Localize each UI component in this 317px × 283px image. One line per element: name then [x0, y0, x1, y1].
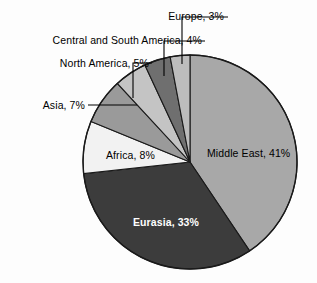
- slice-label-north-america: North America, 5%: [10, 57, 149, 69]
- slice-label-asia: Asia, 7%: [10, 99, 85, 111]
- slice-label-africa: Africa, 8%: [106, 149, 155, 161]
- slice-label-middle-east: Middle East, 41%: [207, 147, 290, 159]
- pie-slices: [83, 55, 297, 269]
- slice-label-eurasia: Eurasia, 33%: [133, 216, 199, 228]
- slice-label-central-and-south-america: Central and South America, 4%: [10, 34, 202, 46]
- pie-chart-figure: Central and South America, 4% North Amer…: [0, 0, 317, 283]
- slice-label-europe: Europe, 3%: [10, 10, 224, 22]
